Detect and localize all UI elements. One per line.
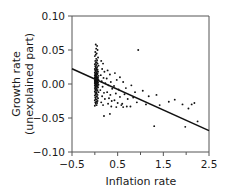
x-axis-title: Inflation rate bbox=[106, 175, 177, 188]
svg-text:0.5: 0.5 bbox=[109, 158, 126, 170]
svg-text:−0.05: −0.05 bbox=[33, 112, 65, 124]
svg-text:0.00: 0.00 bbox=[42, 78, 65, 90]
svg-text:2.5: 2.5 bbox=[201, 158, 218, 170]
svg-text:1.5: 1.5 bbox=[155, 158, 172, 170]
y-axis-title-line1: Growth rate bbox=[10, 51, 23, 117]
chart-canvas: 0.100.050.00−0.05−0.10 −0.50.51.52.5 Inf… bbox=[0, 0, 227, 195]
svg-text:0.05: 0.05 bbox=[42, 44, 65, 56]
y-axis-title-line2: (unexplained part) bbox=[23, 33, 36, 135]
svg-text:−0.5: −0.5 bbox=[59, 158, 85, 170]
svg-text:0.10: 0.10 bbox=[42, 10, 65, 22]
scatter-plot-figure: 0.100.050.00−0.05−0.10 −0.50.51.52.5 Inf… bbox=[0, 0, 227, 195]
svg-text:−0.10: −0.10 bbox=[33, 146, 65, 158]
